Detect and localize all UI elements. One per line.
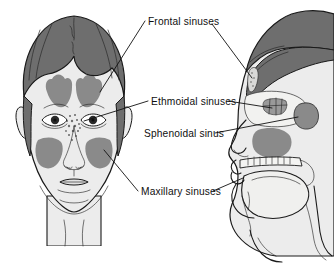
- label-maxillary-sinuses: Maxillary sinuses: [141, 186, 221, 197]
- label-frontal-sinuses: Frontal sinuses: [148, 16, 219, 27]
- tongue: [242, 171, 309, 219]
- pupil-left: [53, 118, 56, 121]
- sinus-anatomy-figure: Frontal sinuses Ethmoidal sinuses Spheno…: [0, 0, 334, 273]
- maxillary-sinus-sagittal: [252, 128, 291, 158]
- lower-crop: [30, 246, 118, 252]
- label-sphenoidal-sinus: Sphenoidal sinus: [144, 128, 224, 139]
- label-ethmoidal-sinuses: Ethmoidal sinuses: [151, 96, 236, 107]
- illustration-canvas: Frontal sinuses Ethmoidal sinuses Spheno…: [0, 0, 334, 273]
- sphenoidal-sinus: [294, 103, 319, 129]
- ethmoidal-sinuses-sagittal: [263, 98, 287, 115]
